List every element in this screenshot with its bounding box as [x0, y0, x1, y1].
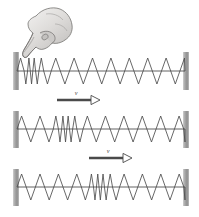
panel-3-velocity-label: v [107, 147, 110, 154]
panel-2-left-wall [13, 111, 19, 148]
panel-2-velocity-label: v [75, 89, 78, 96]
panel-3-left-wall [13, 169, 19, 206]
spring-wave-figure: v v [0, 0, 199, 217]
figure-background [0, 0, 199, 217]
figure-canvas: v v [0, 0, 199, 217]
